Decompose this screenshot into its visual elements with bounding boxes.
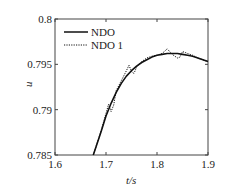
series-layer: [93, 49, 208, 155]
line-chart: 1.61.71.81.9 0.7850.790.7950.8 NDO NDO 1…: [0, 0, 230, 193]
y-axis-ticks: 0.7850.790.7950.8: [27, 13, 208, 161]
x-tick-label: 1.7: [99, 158, 113, 170]
x-tick-label: 1.9: [201, 158, 215, 170]
y-axis-label: u: [22, 81, 34, 87]
series-line-ndo: [93, 54, 208, 156]
y-tick-label: 0.8: [38, 13, 52, 25]
legend-label-ndo: NDO: [91, 26, 115, 38]
x-axis-label: t/s: [126, 174, 136, 186]
axes-frame: [55, 19, 208, 155]
legend-label-ndo1: NDO 1: [91, 39, 123, 51]
x-tick-label: 1.8: [150, 158, 164, 170]
y-tick-label: 0.79: [33, 104, 53, 116]
x-axis-ticks: 1.61.71.81.9: [48, 19, 215, 170]
series-line-ndo1: [93, 49, 208, 155]
y-tick-label: 0.785: [27, 149, 52, 161]
y-tick-label: 0.795: [27, 58, 52, 70]
legend: NDO NDO 1: [64, 26, 123, 51]
